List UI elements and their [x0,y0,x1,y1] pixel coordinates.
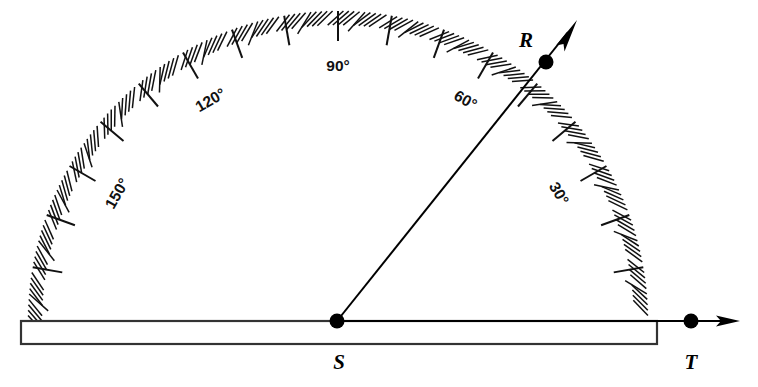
tick-minor [490,64,511,67]
tick-minor [597,178,617,186]
point-label-t: T [685,350,699,374]
tick-minor [78,152,82,173]
tick-minor [152,70,156,91]
tick-minor [195,42,203,62]
point-s-dot [330,314,345,329]
tick-minor [125,94,127,115]
tick-major [387,16,392,46]
tick-minor [148,73,152,94]
tick-minor [508,77,529,79]
degree-label-30: 30° [546,179,572,208]
tick-major [47,215,75,225]
tick-major [33,267,63,272]
tick-major [614,267,644,272]
tick-minor [486,61,507,65]
tick-minor [51,205,59,225]
point-label-r: R [518,28,533,52]
tick-minor [132,87,134,108]
tick-minor [547,112,568,114]
tick-major [580,166,606,181]
tick-minor [97,126,98,147]
tick-major [434,30,444,58]
tick-minor [122,98,123,119]
tick-major [478,53,493,79]
tick-minor [104,118,105,139]
diagram-canvas: 150°120°90°60°30° R S T [0,0,758,387]
tick-minor [614,231,638,240]
tick-minor [565,131,586,135]
tick-minor [248,22,257,46]
protractor-figure: 150°120°90°60°30° R S T [0,0,758,387]
tick-minor [49,210,57,230]
tick-minor [81,148,84,169]
degree-label-60: 60° [451,87,480,113]
tick-minor [190,45,197,65]
tick-minor [625,281,647,294]
tick-minor [558,123,579,126]
tick-major [183,53,198,79]
point-r-dot [539,55,554,70]
tick-minor [159,67,160,92]
tick-minor [567,142,592,143]
tick-minor [90,134,92,155]
protractor-degree-labels: 150°120°90°60°30° [101,57,572,211]
tick-minor [298,12,311,34]
tick-minor [544,108,565,110]
tick-minor [594,173,614,180]
tick-major [70,166,96,181]
tick-minor [429,32,449,40]
degree-label-150: 150° [101,175,132,211]
point-label-s: S [333,350,345,374]
tick-minor [540,105,561,106]
tick-minor [94,130,96,151]
tick-minor [140,80,143,101]
tick-minor [504,73,525,75]
tick-minor [434,34,454,42]
tick-minor [551,115,572,117]
ray-sr-line [337,32,568,321]
tick-minor [129,91,131,112]
point-t-dot [684,314,699,329]
degree-label-120: 120° [192,84,228,115]
degree-label-90: 90° [326,57,349,74]
tick-major [284,16,289,46]
ray-sr-arrowhead [556,20,577,52]
tick-minor [568,135,589,139]
